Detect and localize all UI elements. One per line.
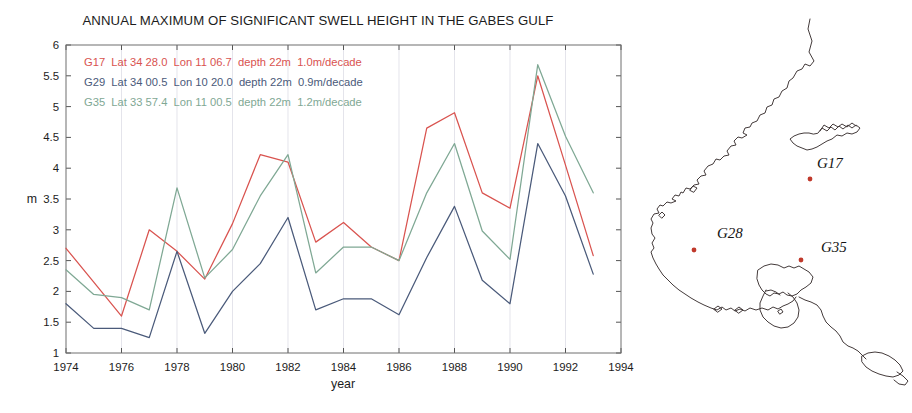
coastline-mainland [651, 19, 814, 311]
coastline-detail-a [690, 186, 697, 192]
x-tick-label: 1986 [386, 361, 411, 373]
coastline-kerkennah [790, 125, 860, 150]
x-axis-title: year [331, 377, 355, 391]
y-tick-label: 4 [53, 162, 59, 174]
y-tick-label: 1 [53, 347, 59, 359]
x-tick-label: 1982 [275, 361, 300, 373]
legend-entry-G17: G17 Lat 34 28.0 Lon 11 06.7 depth 22m 1.… [84, 56, 362, 68]
legend-entry-G29: G29 Lat 34 00.5 Lon 10 20.0 depth 22m 0.… [84, 76, 363, 88]
x-tick-label: 1974 [53, 361, 78, 373]
line-chart: 11.522.533.544.555.56 197419761978198019… [0, 0, 636, 413]
map-site-dot-G28 [692, 248, 697, 253]
map-site-label-G28: G28 [717, 225, 743, 241]
gabes-gulf-map: G17G28G35 [636, 0, 912, 413]
x-tick-label: 1976 [109, 361, 134, 373]
y-tick-label: 3 [53, 224, 59, 236]
y-tick-label: 1.5 [43, 316, 59, 328]
coastline-southeast [862, 352, 903, 377]
coastline-islet-1 [778, 309, 783, 314]
y-tick-label: 6 [53, 39, 59, 51]
map-site-label-G17: G17 [817, 155, 844, 171]
coastline-south [799, 297, 866, 359]
y-tick-label: 4.5 [43, 131, 59, 143]
figure-root: ANNUAL MAXIMUM OF SIGNIFICANT SWELL HEIG… [0, 0, 912, 413]
y-tick-label: 2.5 [43, 255, 59, 267]
x-tick-label: 1990 [497, 361, 522, 373]
chart-panel: ANNUAL MAXIMUM OF SIGNIFICANT SWELL HEIG… [0, 0, 636, 413]
map-site-dot-G17 [808, 177, 813, 182]
y-axis-title: m [27, 192, 37, 206]
legend-entry-G35: G35 Lat 33 57.4 Lon 11 00.5 depth 22m 1.… [84, 96, 362, 108]
x-tick-label: 1988 [442, 361, 467, 373]
gridlines [122, 45, 566, 353]
x-tick-label: 1994 [608, 361, 633, 373]
x-tick-label: 1992 [553, 361, 578, 373]
map-panel: G17G28G35 [636, 0, 912, 413]
y-tick-label: 2 [53, 285, 59, 297]
y-tick-label: 5.5 [43, 70, 59, 82]
x-tick-label: 1978 [164, 361, 189, 373]
chart-legend: G17 Lat 34 28.0 Lon 11 06.7 depth 22m 1.… [84, 56, 363, 108]
y-tick-label: 5 [53, 101, 59, 113]
map-site-dot-G35 [799, 258, 804, 263]
x-tick-label: 1984 [331, 361, 356, 373]
y-tick-label: 3.5 [43, 193, 59, 205]
map-site-label-G35: G35 [821, 239, 847, 255]
coastline-southeast-tail [894, 372, 908, 385]
x-tick-label: 1980 [220, 361, 245, 373]
map-site-markers: G17G28G35 [692, 155, 848, 262]
coastline-detail-b [659, 212, 665, 218]
